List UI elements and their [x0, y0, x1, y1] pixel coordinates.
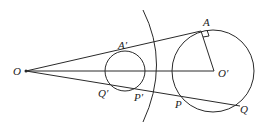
- label-P: P: [175, 99, 182, 110]
- label-A-prime: A′: [118, 40, 127, 51]
- radius-O'A: [201, 31, 214, 71]
- homothety-diagram: O A′ Q′ P′ A O′ P Q: [0, 0, 266, 127]
- label-A: A: [203, 17, 210, 28]
- label-O: O: [13, 66, 21, 77]
- arc: [143, 10, 157, 122]
- label-Q: Q: [240, 104, 248, 115]
- label-Q-prime: Q′: [98, 88, 108, 99]
- label-P-prime: P′: [134, 92, 143, 103]
- diagram-figure: [0, 0, 266, 127]
- point-O: [25, 70, 28, 73]
- tangent-line-OA: [26, 31, 201, 71]
- label-O-prime: O′: [218, 68, 228, 79]
- secant-line-OQ: [26, 71, 240, 106]
